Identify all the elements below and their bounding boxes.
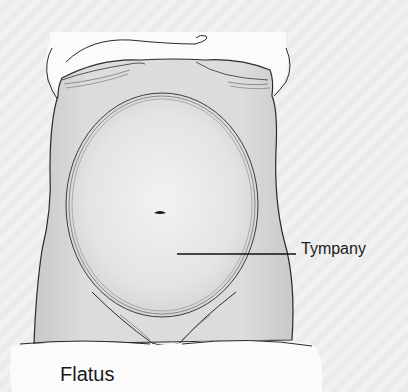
- distended-belly: [66, 93, 258, 317]
- figure-canvas: Tympany Flatus: [0, 0, 408, 392]
- abdomen-illustration: [0, 0, 408, 392]
- tympany-label: Tympany: [301, 240, 366, 258]
- flatus-label: Flatus: [60, 363, 114, 386]
- bottom-sheet: [10, 340, 322, 392]
